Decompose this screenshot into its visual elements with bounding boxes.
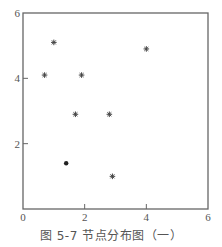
- axis-ticks: 0246246: [15, 7, 212, 223]
- asterisk-marker: [42, 72, 48, 78]
- asterisk-marker: [73, 111, 79, 117]
- x-tick-label: 4: [144, 211, 150, 223]
- asterisk-marker: [51, 40, 57, 46]
- scatter-chart: 0246246: [0, 0, 222, 225]
- plot-frame: [23, 13, 208, 209]
- y-tick-label: 2: [15, 138, 21, 150]
- x-tick-label: 6: [205, 211, 211, 223]
- asterisk-marker: [107, 111, 113, 117]
- figure-caption: 图 5-7 节点分布图（一）: [0, 226, 222, 243]
- center-node-dot: [64, 161, 68, 165]
- y-tick-label: 4: [15, 72, 21, 84]
- x-tick-label: 0: [20, 211, 26, 223]
- asterisk-marker: [110, 174, 116, 180]
- data-points: [42, 40, 149, 180]
- asterisk-marker: [79, 72, 85, 78]
- x-tick-label: 2: [82, 211, 88, 223]
- y-tick-label: 6: [15, 7, 21, 19]
- asterisk-marker: [144, 46, 150, 52]
